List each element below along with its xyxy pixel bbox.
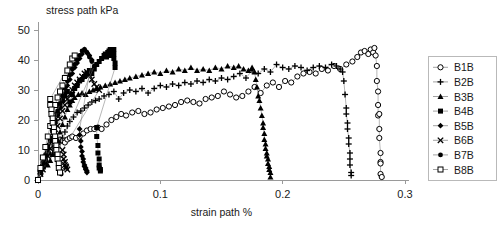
- data-point-open-circle: [221, 89, 226, 94]
- data-point-open-circle: [295, 74, 300, 79]
- data-point-open-circle: [379, 174, 384, 179]
- data-point-plus: [286, 66, 292, 72]
- data-point-open-circle: [372, 45, 377, 50]
- data-point-plus: [261, 66, 267, 72]
- data-point-open-circle: [377, 135, 382, 140]
- data-point-open-circle: [373, 53, 378, 58]
- data-point-filled-triangle: [163, 68, 169, 73]
- data-point-open-circle: [283, 78, 288, 83]
- data-point-filled-triangle: [241, 66, 247, 71]
- data-point-plus: [212, 78, 218, 84]
- data-point-open-circle: [123, 113, 128, 118]
- data-point-open-circle: [234, 95, 239, 100]
- data-point-plus: [188, 81, 194, 87]
- data-point-plus: [127, 87, 133, 93]
- data-point-filled-triangle: [212, 65, 218, 70]
- data-point-open-circle: [160, 105, 165, 110]
- data-point-open-square: [38, 166, 43, 171]
- data-point-open-circle: [191, 99, 196, 104]
- data-point-open-circle: [215, 93, 220, 98]
- data-point-filled-square: [94, 125, 99, 130]
- data-point-plus: [343, 105, 349, 111]
- data-point-plus: [280, 65, 286, 71]
- data-point-filled-square: [111, 52, 116, 57]
- data-point-open-circle: [166, 104, 171, 109]
- data-point-filled-square: [113, 65, 118, 70]
- y-tick-label: 0: [24, 174, 30, 186]
- data-point-plus: [219, 75, 225, 81]
- data-point-x-cross: [60, 108, 65, 113]
- data-point-filled-square: [95, 143, 100, 148]
- legend-label-B5B: B5B: [454, 120, 474, 132]
- data-point-filled-triangle: [236, 63, 242, 68]
- data-point-filled-triangle: [117, 78, 123, 83]
- data-point-open-circle: [246, 89, 251, 94]
- data-point-open-circle: [350, 59, 355, 64]
- legend-label-B3B: B3B: [454, 91, 474, 103]
- data-point-filled-circle: [77, 53, 82, 58]
- data-point-plus: [267, 69, 273, 75]
- data-point-open-square: [72, 53, 77, 58]
- x-tick-label: 0: [35, 188, 41, 200]
- stress-strain-chart: stress path kPa0102030405000.10.20.3stra…: [0, 0, 501, 229]
- data-point-open-circle: [109, 117, 114, 122]
- data-point-filled-triangle: [261, 137, 267, 142]
- data-point-plus: [163, 84, 169, 90]
- data-point-plus: [151, 86, 157, 92]
- data-point-filled-triangle: [122, 77, 128, 82]
- data-point-filled-square: [94, 134, 99, 139]
- data-point-open-circle: [197, 101, 202, 106]
- data-point-open-circle: [375, 89, 380, 94]
- series-line-B1B: [38, 48, 382, 180]
- data-point-plus: [298, 65, 304, 71]
- data-point-open-circle: [172, 102, 177, 107]
- data-point-open-square: [65, 68, 70, 73]
- data-point-filled-circle: [87, 55, 92, 60]
- data-point-open-circle: [240, 93, 245, 98]
- data-point-open-square: [48, 97, 53, 102]
- y-tick-label: 10: [18, 144, 30, 156]
- data-point-open-circle: [270, 80, 275, 85]
- data-point-filled-square: [97, 157, 102, 162]
- data-point-open-circle: [203, 96, 208, 101]
- data-point-filled-circle: [92, 64, 97, 69]
- legend-label-B8B: B8B: [454, 164, 474, 176]
- data-point-open-circle: [264, 83, 269, 88]
- data-point-filled-triangle: [253, 77, 259, 82]
- data-point-filled-triangle: [188, 65, 194, 70]
- data-point-open-circle: [179, 99, 184, 104]
- data-point-filled-triangle: [102, 83, 108, 88]
- data-point-open-square: [60, 83, 65, 88]
- data-point-filled-triangle: [225, 63, 231, 68]
- data-point-filled-square: [113, 61, 118, 66]
- data-point-open-square: [43, 145, 48, 150]
- data-point-filled-triangle: [112, 80, 118, 85]
- data-point-open-circle: [104, 122, 109, 127]
- data-point-filled-triangle: [62, 114, 68, 119]
- data-point-plus: [346, 141, 352, 147]
- data-point-open-circle: [378, 161, 383, 166]
- data-point-plus: [116, 96, 122, 102]
- data-point-plus: [111, 89, 117, 95]
- x-tick-label: 0.1: [153, 188, 168, 200]
- data-point-open-circle: [377, 111, 382, 116]
- data-point-open-circle: [227, 92, 232, 97]
- data-point-plus: [347, 156, 353, 162]
- data-point-open-square: [58, 89, 63, 94]
- data-point-filled-triangle: [249, 65, 255, 70]
- data-point-plus: [121, 90, 127, 96]
- data-point-plus: [292, 63, 298, 69]
- data-point-plus: [342, 92, 348, 98]
- legend-box: [428, 56, 496, 181]
- data-point-filled-triangle: [59, 122, 65, 127]
- data-point-filled-circle: [55, 109, 60, 114]
- data-point-open-circle: [209, 95, 214, 100]
- data-point-open-square: [62, 76, 67, 81]
- data-point-filled-circle: [58, 101, 63, 106]
- y-tick-label: 20: [18, 114, 30, 126]
- x-tick-label: 0.2: [275, 188, 290, 200]
- data-point-plus: [341, 78, 347, 84]
- data-point-filled-diamond: [78, 144, 84, 150]
- data-point-open-square: [36, 178, 41, 183]
- data-point-plus: [194, 78, 200, 84]
